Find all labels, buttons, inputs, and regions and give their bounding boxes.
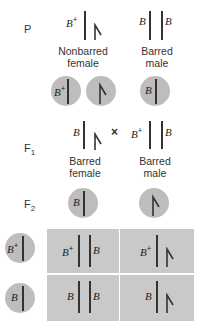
z-chromosome-icon	[156, 281, 158, 313]
z-chromosome-icon	[78, 235, 80, 267]
p-female-allele: B+	[66, 15, 77, 29]
p-male-genotype: B B	[134, 6, 184, 40]
f1-base: F	[24, 142, 31, 154]
z-chromosome-icon	[149, 121, 151, 149]
cell-allele-right: B	[93, 290, 100, 302]
gamete-circle: B+	[51, 76, 81, 106]
w-chromosome-icon	[165, 293, 175, 313]
punnett-square: B+ B B+ B B B	[47, 229, 194, 321]
generation-label-p: P	[24, 23, 31, 35]
generation-label-f2: F2	[24, 198, 35, 213]
f1-female-allele: B	[73, 126, 80, 138]
punnett-cell: B	[120, 275, 194, 321]
generation-label-f1: F1	[24, 142, 35, 157]
z-chromosome-icon	[78, 281, 80, 313]
p-male-caption: Barredmale	[127, 45, 187, 69]
cell-allele-left: B	[67, 290, 74, 302]
f1-female-genotype: B	[68, 118, 108, 152]
f2-sub: 2	[31, 204, 35, 213]
f1-male-genotype: B+ B	[128, 118, 178, 152]
f2-base: F	[24, 198, 31, 210]
gamete-allele: B+	[7, 241, 18, 255]
z-chromosome-icon	[161, 11, 163, 40]
z-chromosome-icon	[83, 121, 85, 149]
gamete-circle	[139, 188, 169, 218]
f1-male-caption: Barredmale	[125, 155, 185, 179]
f1-male-allele-left: B+	[131, 126, 142, 140]
p-male-allele-left: B	[139, 15, 146, 27]
gamete-circle: B+	[5, 233, 35, 263]
f1-male-allele-right: B	[165, 126, 172, 138]
gamete-allele: B	[73, 196, 80, 208]
punnett-cell: B B	[47, 275, 119, 321]
z-chromosome-icon	[161, 121, 163, 149]
gamete-circle: B	[68, 188, 98, 218]
f1-sub: 1	[31, 148, 35, 157]
z-chromosome-icon	[89, 235, 91, 267]
p-female-genotype: B+	[60, 6, 110, 40]
z-chromosome-icon	[155, 79, 157, 104]
cell-allele-left: B+	[140, 244, 151, 258]
w-chromosome-icon	[93, 23, 103, 40]
z-chromosome-icon	[84, 11, 86, 40]
w-chromosome-icon	[97, 82, 107, 104]
cross-symbol: ×	[111, 125, 118, 139]
z-chromosome-icon	[89, 281, 91, 313]
z-chromosome-icon	[22, 236, 24, 261]
z-chromosome-icon	[156, 235, 158, 267]
p-female-caption: Nonbarredfemale	[53, 45, 113, 69]
gamete-circle: B	[140, 76, 170, 106]
p-male-allele-right: B	[165, 15, 172, 27]
gamete-circle	[86, 76, 116, 106]
z-chromosome-icon	[67, 79, 69, 104]
gamete-allele: B	[145, 84, 152, 96]
z-chromosome-icon	[149, 11, 151, 40]
z-chromosome-icon	[22, 286, 24, 311]
z-chromosome-icon	[83, 191, 85, 216]
gamete-allele: B+	[54, 84, 65, 98]
w-chromosome-icon	[165, 247, 175, 267]
w-chromosome-icon	[93, 132, 103, 150]
gamete-circle: B	[5, 283, 35, 313]
f1-female-caption: Barredfemale	[55, 155, 115, 179]
punnett-cell: B+	[120, 229, 194, 273]
punnett-cell: B+ B	[47, 229, 119, 273]
cell-allele-right: B	[93, 244, 100, 256]
w-chromosome-icon	[150, 194, 160, 216]
gamete-allele: B	[11, 291, 18, 303]
cell-allele-left: B+	[62, 244, 73, 258]
cell-allele-left: B	[145, 290, 152, 302]
